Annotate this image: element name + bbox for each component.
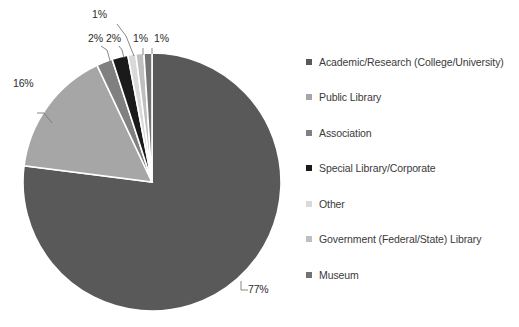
legend-swatch-icon (306, 201, 312, 207)
legend-item[interactable]: Other (306, 186, 519, 222)
legend: Academic/Research (College/University)Pu… (306, 44, 519, 293)
legend-swatch-icon (306, 272, 312, 278)
legend-swatch-icon (306, 236, 312, 242)
legend-item-label: Association (319, 127, 372, 139)
pct-label-other: 1% (92, 8, 107, 20)
legend-swatch-icon (306, 94, 312, 100)
pct-label-association: 2% (88, 32, 103, 44)
pie-slice-group (23, 53, 281, 311)
legend-swatch-icon (306, 165, 312, 171)
pct-label-academic: 77% (248, 283, 268, 295)
pie-chart-figure: 77% 16% 2% 2% 1% 1% 1% Academic/Research… (0, 0, 519, 327)
legend-item-label: Academic/Research (College/University) (319, 56, 504, 68)
legend-item[interactable]: Academic/Research (College/University) (306, 44, 519, 80)
legend-item-label: Government (Federal/State) Library (319, 233, 481, 245)
legend-item-label: Special Library/Corporate (319, 162, 436, 174)
legend-item[interactable]: Association (306, 115, 519, 151)
legend-item[interactable]: Museum (306, 257, 519, 293)
legend-swatch-icon (306, 130, 312, 136)
legend-item-label: Museum (319, 269, 359, 281)
pct-label-government: 1% (133, 32, 148, 44)
pct-label-special-library: 2% (106, 32, 121, 44)
pct-label-museum: 1% (154, 32, 169, 44)
pie-svg (0, 0, 300, 327)
legend-swatch-icon (306, 59, 312, 65)
pct-label-public-library: 16% (13, 77, 33, 89)
legend-item-label: Public Library (319, 91, 381, 103)
legend-item[interactable]: Government (Federal/State) Library (306, 222, 519, 258)
leader-line-academic (241, 281, 248, 290)
legend-item[interactable]: Public Library (306, 80, 519, 116)
pie-plot-area: 77% 16% 2% 2% 1% 1% 1% (0, 0, 300, 327)
legend-item[interactable]: Special Library/Corporate (306, 151, 519, 187)
legend-item-label: Other (319, 198, 345, 210)
